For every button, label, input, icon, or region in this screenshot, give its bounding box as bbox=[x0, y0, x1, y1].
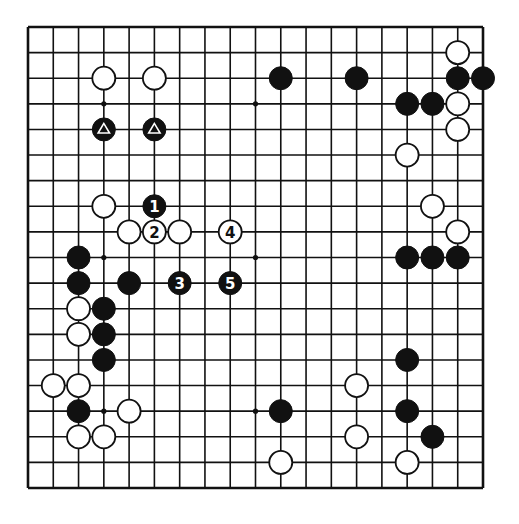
white-stone bbox=[345, 425, 368, 448]
white-stone bbox=[396, 144, 419, 167]
stone-body bbox=[345, 425, 368, 448]
stone-body bbox=[42, 374, 65, 397]
move-number-label: 2 bbox=[149, 224, 159, 242]
stone-body bbox=[168, 220, 191, 243]
stone-body bbox=[92, 425, 115, 448]
white-stone: 4 bbox=[219, 220, 242, 243]
black-stone bbox=[118, 272, 141, 295]
white-stone bbox=[421, 195, 444, 218]
stone-body bbox=[67, 272, 90, 295]
stone-body bbox=[421, 195, 444, 218]
black-stone: 5 bbox=[219, 272, 242, 295]
black-stone bbox=[67, 246, 90, 269]
star-point bbox=[101, 409, 106, 414]
stone-body bbox=[396, 246, 419, 269]
move-number-label: 3 bbox=[174, 275, 184, 293]
black-stone bbox=[446, 67, 469, 90]
white-stone bbox=[396, 451, 419, 474]
star-point bbox=[253, 409, 258, 414]
stone-body bbox=[421, 425, 444, 448]
white-stone bbox=[92, 425, 115, 448]
star-point bbox=[101, 255, 106, 260]
black-stone bbox=[92, 118, 115, 141]
move-number-label: 1 bbox=[149, 198, 159, 216]
white-stone bbox=[67, 374, 90, 397]
black-stone: 3 bbox=[168, 272, 191, 295]
black-stone bbox=[67, 272, 90, 295]
black-stone bbox=[421, 425, 444, 448]
stone-body bbox=[421, 92, 444, 115]
white-stone: 2 bbox=[143, 220, 166, 243]
move-number-label: 4 bbox=[225, 224, 235, 242]
stone-body bbox=[396, 92, 419, 115]
stone-body bbox=[269, 67, 292, 90]
stone-body bbox=[446, 92, 469, 115]
black-stone bbox=[396, 400, 419, 423]
black-stone bbox=[396, 348, 419, 371]
black-stone bbox=[67, 400, 90, 423]
stone-body bbox=[396, 348, 419, 371]
black-stone bbox=[421, 92, 444, 115]
white-stone bbox=[67, 297, 90, 320]
black-stone bbox=[269, 67, 292, 90]
stone-body bbox=[446, 220, 469, 243]
stone-body bbox=[396, 451, 419, 474]
stone-body bbox=[396, 144, 419, 167]
stone-body bbox=[92, 118, 115, 141]
stone-body bbox=[118, 272, 141, 295]
black-stone bbox=[92, 323, 115, 346]
stone-body bbox=[143, 118, 166, 141]
stone-body bbox=[446, 246, 469, 269]
stone-body bbox=[67, 246, 90, 269]
black-stone bbox=[472, 67, 495, 90]
black-stone bbox=[92, 297, 115, 320]
star-point bbox=[253, 255, 258, 260]
black-stone bbox=[143, 118, 166, 141]
stone-body bbox=[345, 67, 368, 90]
go-board: 12435 bbox=[0, 0, 519, 524]
stone-body bbox=[143, 67, 166, 90]
white-stone bbox=[143, 67, 166, 90]
white-stone bbox=[92, 195, 115, 218]
white-stone bbox=[118, 220, 141, 243]
star-point bbox=[101, 101, 106, 106]
black-stone bbox=[345, 67, 368, 90]
black-stone: 1 bbox=[143, 195, 166, 218]
stone-body bbox=[345, 374, 368, 397]
white-stone bbox=[67, 323, 90, 346]
white-stone bbox=[446, 92, 469, 115]
stone-body bbox=[92, 348, 115, 371]
stone-body bbox=[421, 246, 444, 269]
white-stone bbox=[118, 400, 141, 423]
black-stone bbox=[269, 400, 292, 423]
stone-body bbox=[118, 220, 141, 243]
move-number-label: 5 bbox=[225, 275, 235, 293]
white-stone bbox=[446, 118, 469, 141]
stone-body bbox=[446, 118, 469, 141]
stone-body bbox=[67, 425, 90, 448]
white-stone bbox=[345, 374, 368, 397]
black-stone bbox=[446, 246, 469, 269]
stone-body bbox=[67, 374, 90, 397]
stone-body bbox=[118, 400, 141, 423]
white-stone bbox=[446, 41, 469, 64]
stone-body bbox=[92, 323, 115, 346]
stone-body bbox=[269, 400, 292, 423]
white-stone bbox=[269, 451, 292, 474]
black-stone bbox=[92, 348, 115, 371]
stone-body bbox=[396, 400, 419, 423]
white-stone bbox=[446, 220, 469, 243]
stone-body bbox=[92, 67, 115, 90]
stone-body bbox=[67, 297, 90, 320]
stone-body bbox=[446, 67, 469, 90]
black-stone bbox=[396, 92, 419, 115]
stone-body bbox=[67, 323, 90, 346]
star-point bbox=[253, 101, 258, 106]
stone-body bbox=[92, 195, 115, 218]
white-stone bbox=[92, 67, 115, 90]
stone-body bbox=[92, 297, 115, 320]
stone-body bbox=[269, 451, 292, 474]
white-stone bbox=[67, 425, 90, 448]
stone-body bbox=[67, 400, 90, 423]
white-stone bbox=[168, 220, 191, 243]
